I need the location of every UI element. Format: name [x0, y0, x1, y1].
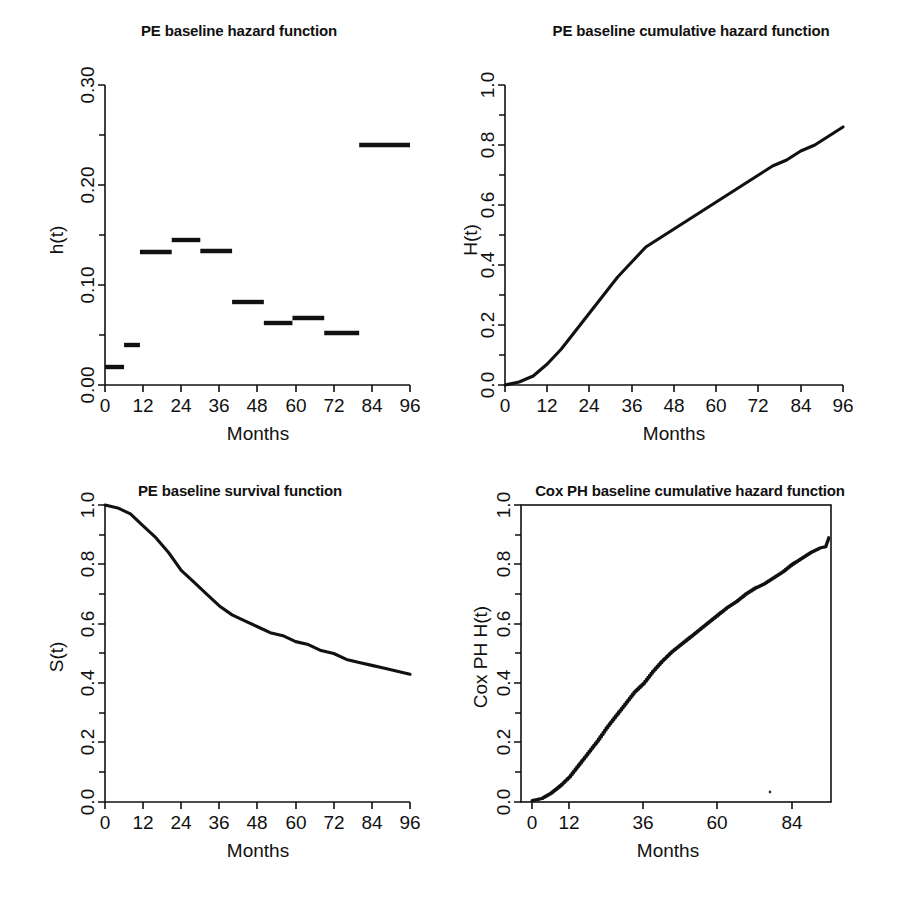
- x-tick-label: 48: [246, 395, 267, 416]
- y-tick-label: 0.0: [77, 789, 98, 815]
- hazard-plot-svg: 0.00 0.10 0.20 0.30 h(t) 0 12 24 36 48 6…: [0, 0, 458, 452]
- x-tick-label: 24: [170, 812, 192, 833]
- y-tick-label: 0.4: [493, 669, 514, 696]
- x-tick-label: 36: [621, 395, 642, 416]
- coxph-plot-svg: 0.0 0.2 0.4 0.6 0.8 1.0 Cox PH H(t) 0 12…: [458, 452, 916, 904]
- x-tick-label: 48: [246, 812, 267, 833]
- survival-curve: [105, 505, 410, 674]
- x-tick-label: 0: [100, 812, 111, 833]
- x-tick-label: 96: [399, 395, 420, 416]
- y-axis-label: Cox PH H(t): [470, 606, 491, 708]
- y-tick-label: 0.6: [77, 611, 98, 637]
- x-tick-label: 12: [558, 812, 579, 833]
- x-tick-label: 0: [527, 812, 538, 833]
- x-tick-label: 96: [399, 812, 420, 833]
- x-axis-label: Months: [637, 840, 699, 861]
- panel-cox-ph-baseline-cumulative-hazard: Cox PH baseline cumulative hazard functi…: [458, 452, 916, 904]
- panel-pe-baseline-survival: PE baseline survival function 0.0 0.2 0.…: [0, 452, 458, 904]
- x-tick-label: 60: [285, 812, 306, 833]
- x-tick-label: 12: [132, 395, 153, 416]
- x-axis-ticks: [105, 385, 410, 392]
- y-axis-label: H(t): [460, 224, 481, 256]
- x-tick-label: 60: [285, 395, 306, 416]
- x-axis-ticks: [532, 802, 792, 809]
- y-axis-minor-ticks: [515, 535, 521, 772]
- y-tick-label: 0.6: [493, 611, 514, 637]
- x-tick-label: 84: [361, 395, 383, 416]
- x-tick-label: 84: [790, 395, 812, 416]
- y-tick-label: 0.10: [77, 267, 98, 304]
- y-axis-minor-ticks: [499, 115, 505, 355]
- x-tick-label: 0: [100, 395, 111, 416]
- x-axis-label: Months: [643, 423, 705, 444]
- panel-pe-baseline-cumulative-hazard: PE baseline cumulative hazard function 0…: [458, 0, 916, 452]
- y-tick-label: 0.0: [477, 372, 498, 398]
- y-tick-label: 0.30: [77, 67, 98, 104]
- x-axis-label: Months: [227, 423, 289, 444]
- y-tick-label: 0.8: [477, 132, 498, 158]
- y-tick-label: 0.2: [493, 729, 514, 755]
- y-axis-minor-ticks: [99, 535, 105, 772]
- x-axis-label: Months: [227, 840, 289, 861]
- hazard-step-series: [105, 145, 410, 367]
- y-tick-label: 0.6: [477, 192, 498, 218]
- survival-plot-svg: 0.0 0.2 0.4 0.6 0.8 1.0 S(t) 0 12 24 36 …: [0, 452, 458, 904]
- y-axis-label: h(t): [46, 226, 67, 255]
- figure-grid: PE baseline hazard function 0.00 0.10 0.…: [0, 0, 916, 904]
- x-tick-label: 24: [578, 395, 600, 416]
- panel-pe-baseline-hazard: PE baseline hazard function 0.00 0.10 0.…: [0, 0, 458, 452]
- y-tick-label: 0.0: [493, 789, 514, 815]
- scan-speck: [769, 791, 772, 794]
- cox-ph-cumulative-hazard-curve: [532, 538, 829, 801]
- x-tick-label: 36: [208, 812, 229, 833]
- y-tick-label: 0.8: [493, 551, 514, 577]
- x-tick-label: 84: [361, 812, 383, 833]
- x-axis-ticks: [505, 385, 843, 392]
- x-tick-label: 84: [781, 812, 803, 833]
- x-axis-ticks: [105, 802, 410, 809]
- x-tick-label: 36: [208, 395, 229, 416]
- x-tick-label: 0: [500, 395, 511, 416]
- cumhazard-plot-svg: 0.0 0.2 0.4 0.6 0.8 1.0 H(t) 0 12 24 36 …: [458, 0, 916, 452]
- y-tick-label: 0.00: [77, 367, 98, 404]
- y-tick-label: 1.0: [477, 72, 498, 98]
- y-tick-label: 1.0: [493, 492, 514, 518]
- x-tick-label: 96: [832, 395, 853, 416]
- plot-box-frame: [521, 505, 831, 802]
- x-tick-label: 36: [632, 812, 653, 833]
- x-tick-label: 12: [132, 812, 153, 833]
- x-tick-label: 24: [170, 395, 192, 416]
- y-tick-label: 1.0: [77, 492, 98, 518]
- x-tick-label: 48: [663, 395, 684, 416]
- y-axis-minor-ticks: [99, 135, 105, 335]
- y-tick-label: 0.2: [77, 729, 98, 755]
- y-tick-label: 0.2: [477, 312, 498, 338]
- x-tick-label: 12: [536, 395, 557, 416]
- y-tick-label: 0.4: [77, 669, 98, 696]
- y-tick-label: 0.8: [77, 551, 98, 577]
- x-tick-label: 72: [747, 395, 768, 416]
- x-tick-label: 60: [706, 812, 727, 833]
- y-axis-label: S(t): [46, 642, 67, 673]
- cumulative-hazard-curve: [505, 127, 843, 385]
- x-tick-label: 60: [705, 395, 726, 416]
- y-tick-label: 0.20: [77, 167, 98, 204]
- x-tick-label: 72: [323, 395, 344, 416]
- x-tick-label: 72: [323, 812, 344, 833]
